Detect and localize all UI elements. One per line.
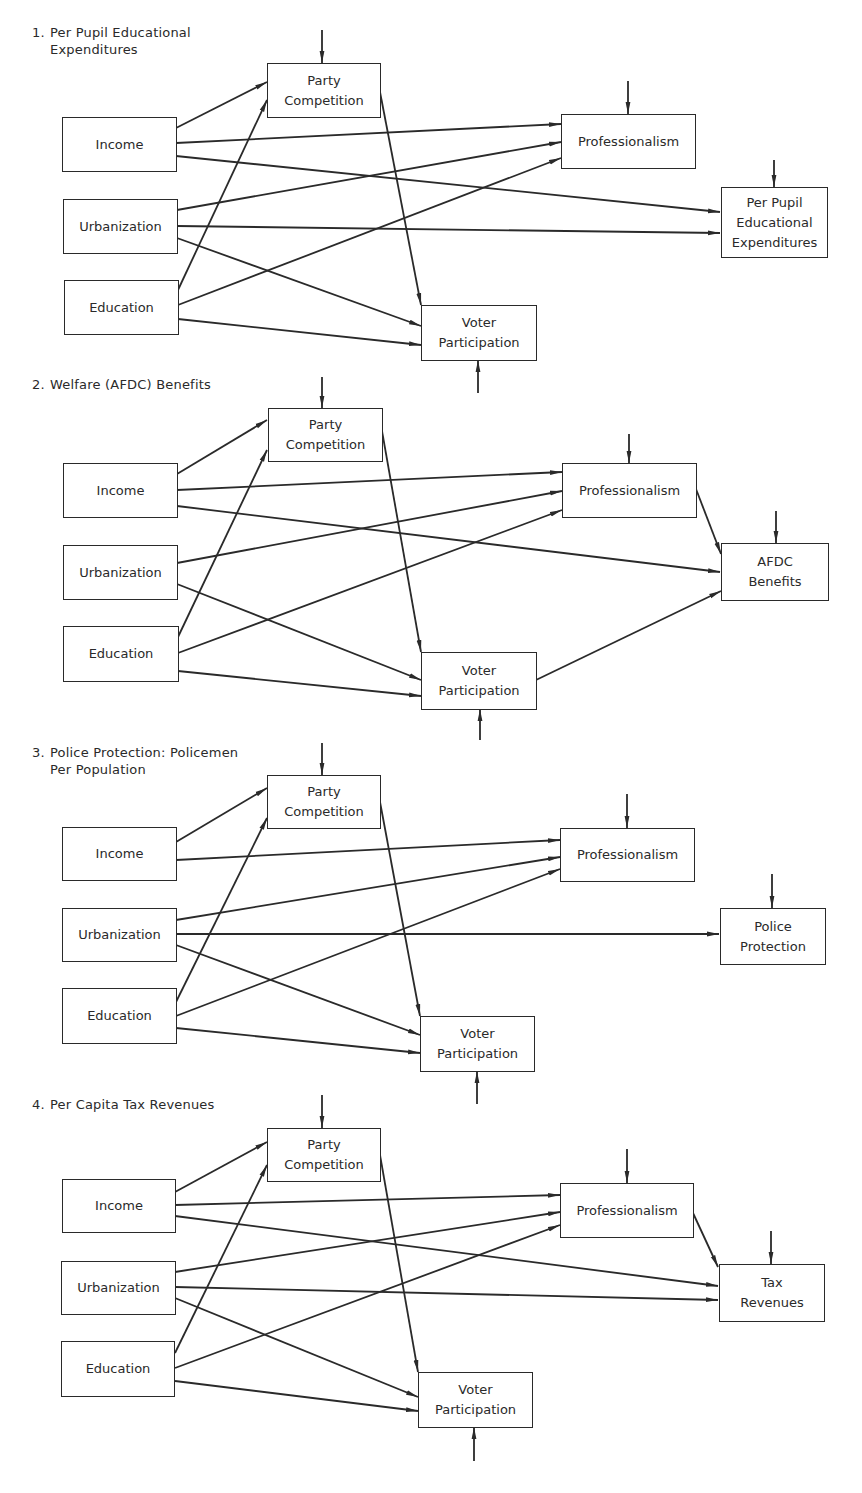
node-professionalism: Professionalism bbox=[560, 1183, 694, 1238]
diagram-1-title: 1.Per Pupil Educational Expenditures bbox=[32, 24, 191, 58]
node-party-competition: Party Competition bbox=[267, 1128, 381, 1182]
node-education: Education bbox=[61, 1341, 175, 1397]
diagram-3-title: 3.Police Protection: Policemen Per Popul… bbox=[32, 744, 238, 778]
node-party-competition: Party Competition bbox=[267, 63, 381, 118]
diagram-3-title-line2: Per Population bbox=[32, 761, 238, 778]
diagram-2-number: 2. bbox=[32, 376, 50, 393]
node-party-competition: Party Competition bbox=[267, 775, 381, 829]
node-tax-revenues: Tax Revenues bbox=[719, 1264, 825, 1322]
node-urbanization: Urbanization bbox=[63, 199, 178, 254]
node-voter-participation: Voter Participation bbox=[420, 1016, 535, 1072]
node-professionalism: Professionalism bbox=[562, 463, 697, 518]
diagram-4-number: 4. bbox=[32, 1096, 50, 1113]
diagram-2-title: 2.Welfare (AFDC) Benefits bbox=[32, 376, 211, 393]
node-education: Education bbox=[62, 988, 177, 1044]
diagram-3-number: 3. bbox=[32, 744, 50, 761]
node-police-protection: Police Protection bbox=[720, 908, 826, 965]
node-education: Education bbox=[64, 280, 179, 335]
node-education: Education bbox=[63, 626, 179, 682]
node-voter-participation: Voter Participation bbox=[418, 1372, 533, 1428]
diagram-1-title-line2: Expenditures bbox=[32, 41, 191, 58]
diagram-3-title-line1: Police Protection: Policemen bbox=[50, 745, 238, 760]
diagram-2-title-line1: Welfare (AFDC) Benefits bbox=[50, 377, 211, 392]
node-urbanization: Urbanization bbox=[63, 545, 178, 600]
diagram-1-number: 1. bbox=[32, 24, 50, 41]
node-professionalism: Professionalism bbox=[561, 114, 696, 169]
node-per-pupil-expenditures: Per Pupil Educational Expenditures bbox=[721, 187, 828, 258]
diagram-1-title-line1: Per Pupil Educational bbox=[50, 25, 191, 40]
node-income: Income bbox=[62, 117, 177, 172]
node-income: Income bbox=[62, 827, 177, 881]
node-voter-participation: Voter Participation bbox=[421, 652, 537, 710]
node-urbanization: Urbanization bbox=[61, 1261, 176, 1315]
diagram-4-title: 4.Per Capita Tax Revenues bbox=[32, 1096, 215, 1113]
node-professionalism: Professionalism bbox=[560, 828, 695, 882]
node-urbanization: Urbanization bbox=[62, 908, 177, 962]
diagram-4-title-line1: Per Capita Tax Revenues bbox=[50, 1097, 215, 1112]
node-party-competition: Party Competition bbox=[268, 408, 383, 462]
node-income: Income bbox=[63, 463, 178, 518]
node-income: Income bbox=[62, 1179, 176, 1233]
node-voter-participation: Voter Participation bbox=[421, 305, 537, 361]
node-afdc-benefits: AFDC Benefits bbox=[721, 543, 829, 601]
